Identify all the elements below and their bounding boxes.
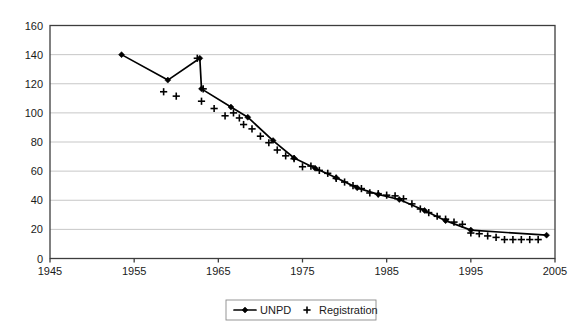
y-tick-label: 160 [25,20,43,32]
series-registration-markers [160,55,542,244]
y-tick-label: 0 [37,253,43,265]
registration-point [257,133,264,140]
chart-container: 020406080100120140160 194519551965197519… [0,0,588,329]
unpd-point [333,175,339,181]
registration-point [240,121,247,128]
registration-point [236,114,243,121]
x-tick-label: 1995 [459,265,483,277]
y-axis-tick-labels: 020406080100120140160 [25,20,43,265]
x-axis-tick-labels: 1945195519651975198519952005 [38,259,567,277]
legend-label-unpd: UNPD [260,304,291,316]
registration-point [211,105,218,112]
y-tick-label: 40 [31,194,43,206]
x-tick-label: 1955 [122,265,146,277]
y-tick-label: 60 [31,165,43,177]
registration-point [501,236,508,243]
registration-point [160,88,167,95]
series-unpd-line [122,55,547,236]
gridlines [50,55,555,230]
unpd-point [544,232,550,238]
registration-point [274,146,281,153]
x-tick-label: 1945 [38,265,62,277]
y-tick-label: 100 [25,107,43,119]
series-unpd-markers [119,52,550,239]
registration-point [198,98,205,105]
legend: UNPDRegistration [226,300,378,320]
registration-point [518,236,525,243]
y-tick-label: 140 [25,49,43,61]
registration-point [492,234,499,241]
registration-point [509,236,516,243]
registration-point [484,232,491,239]
unpd-point [396,197,402,203]
registration-point [173,93,180,100]
y-tick-label: 120 [25,78,43,90]
x-tick-label: 2005 [543,265,567,277]
unpd-polyline [122,55,547,236]
registration-point [526,236,533,243]
registration-point [535,236,542,243]
registration-point [248,125,255,132]
x-tick-label: 1975 [290,265,314,277]
x-tick-label: 1985 [374,265,398,277]
x-tick-label: 1965 [206,265,230,277]
unpd-point [375,191,381,197]
unpd-point [468,227,474,233]
line-chart: 020406080100120140160 194519551965197519… [0,0,588,329]
y-tick-label: 80 [31,136,43,148]
legend-label-registration: Registration [319,304,378,316]
y-tick-label: 20 [31,223,43,235]
